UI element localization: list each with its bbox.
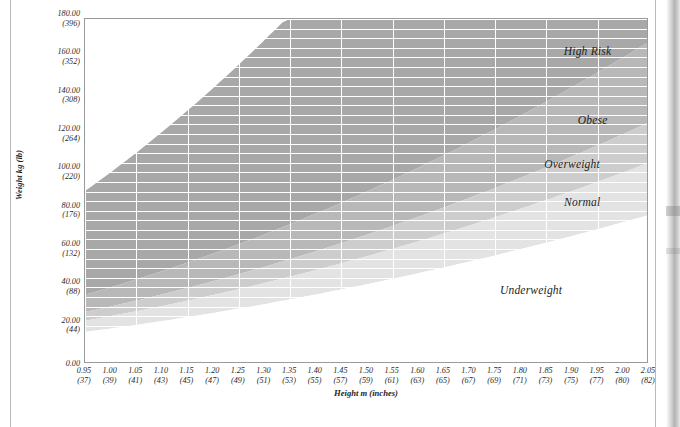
y-tick-lb: (132)	[10, 249, 80, 259]
gridline-horizontal	[85, 172, 647, 173]
y-tick-kg: 140.00	[57, 86, 80, 95]
gridline-horizontal	[85, 124, 647, 125]
x-axis-title: Height m (inches)	[84, 388, 648, 398]
gridline-vertical	[598, 19, 599, 362]
gridline-horizontal	[85, 259, 647, 260]
band-label-overweight: Overweight	[544, 158, 600, 170]
y-tick-kg: 120.00	[57, 124, 80, 133]
gridline-horizontal	[85, 67, 647, 68]
page-gutter-shadow	[666, 0, 680, 427]
gridline-vertical	[85, 19, 86, 362]
gridline-horizontal	[85, 19, 647, 20]
gridline-vertical	[393, 19, 394, 362]
y-tick-kg: 60.00	[62, 239, 80, 248]
gridline-horizontal	[85, 134, 647, 135]
y-tick-lb: (44)	[10, 325, 80, 335]
gridline-horizontal	[85, 249, 647, 250]
gridline-vertical	[341, 19, 342, 362]
y-tick-lb: (396)	[10, 19, 80, 29]
y-tick-kg: 180.00	[57, 9, 80, 18]
gridline-vertical	[444, 19, 445, 362]
gridline-vertical	[188, 19, 189, 362]
gridline-horizontal	[85, 335, 647, 336]
bmi-chart-plot-area: UnderweightNormalOverweightObeseHigh Ris…	[84, 18, 648, 363]
gridline-horizontal	[85, 115, 647, 116]
gridline-horizontal	[85, 144, 647, 145]
bmi-band-areas	[85, 19, 647, 362]
gridline-horizontal	[85, 153, 647, 154]
gridline-horizontal	[85, 230, 647, 231]
gridline-horizontal	[85, 307, 647, 308]
band-label-normal: Normal	[564, 196, 600, 208]
band-label-high-risk: High Risk	[564, 45, 611, 57]
gridline-horizontal	[85, 287, 647, 288]
gridline-horizontal	[85, 48, 647, 49]
gridline-vertical	[136, 19, 137, 362]
y-tick-lb: (88)	[10, 287, 80, 297]
gridline-horizontal	[85, 354, 647, 355]
bmi-chart-screenshot: UnderweightNormalOverweightObeseHigh Ris…	[0, 0, 680, 427]
gridline-horizontal	[85, 239, 647, 240]
gridline-horizontal	[85, 211, 647, 212]
gridline-horizontal	[85, 220, 647, 221]
gridline-horizontal	[85, 96, 647, 97]
gridline-horizontal	[85, 57, 647, 58]
gridline-vertical	[239, 19, 240, 362]
y-tick-label: 40.00(88)	[10, 277, 80, 296]
band-label-obese: Obese	[578, 114, 608, 126]
gridline-horizontal	[85, 268, 647, 269]
gridline-horizontal	[85, 38, 647, 39]
band-label-underweight: Underweight	[500, 284, 562, 296]
y-tick-kg: 20.00	[62, 316, 80, 325]
gridline-horizontal	[85, 297, 647, 298]
gridline-vertical	[495, 19, 496, 362]
gridline-horizontal	[85, 326, 647, 327]
gridline-vertical	[290, 19, 291, 362]
gridline-horizontal	[85, 345, 647, 346]
y-tick-kg: 160.00	[57, 47, 80, 56]
gridline-horizontal	[85, 182, 647, 183]
y-tick-label: 60.00(132)	[10, 239, 80, 258]
x-tick-inches: (82)	[628, 376, 668, 386]
y-tick-lb: (176)	[10, 210, 80, 220]
gridline-horizontal	[85, 105, 647, 106]
y-tick-kg: 80.00	[62, 201, 80, 210]
y-tick-kg: 40.00	[62, 277, 80, 286]
gridline-vertical	[546, 19, 547, 362]
gridline-horizontal	[85, 29, 647, 30]
gridline-horizontal	[85, 86, 647, 87]
gridline-horizontal	[85, 316, 647, 317]
gridline-horizontal	[85, 77, 647, 78]
gridline-horizontal	[85, 192, 647, 193]
x-tick-label: 2.05(82)	[628, 366, 668, 385]
y-tick-label: 180.00(396)	[10, 9, 80, 28]
y-tick-label: 20.00(44)	[10, 316, 80, 335]
y-tick-kg: 100.00	[57, 162, 80, 171]
y-tick-label: 80.00(176)	[10, 201, 80, 220]
gridline-horizontal	[85, 278, 647, 279]
x-tick-meters: 2.05	[641, 366, 655, 375]
y-axis-title: Weight kg (lb)	[14, 30, 24, 150]
y-axis-title-text: Weight kg (lb)	[14, 150, 24, 200]
gridline-horizontal	[85, 201, 647, 202]
